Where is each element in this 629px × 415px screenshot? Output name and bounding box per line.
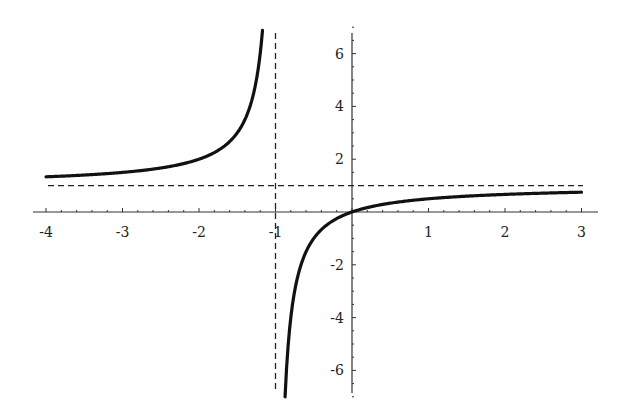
function-plot: -4-3-2-1123-6-4-2246: [0, 0, 629, 415]
y-tick-label: 2: [335, 151, 344, 167]
y-tick-label: -2: [330, 257, 344, 273]
x-tick-label: 1: [424, 224, 433, 240]
function-curves: [46, 30, 582, 396]
axes: [33, 33, 598, 393]
x-tick-label: 3: [577, 224, 586, 240]
asymptote-lines: [48, 33, 583, 393]
y-tick-label: 6: [335, 46, 344, 62]
x-tick-label: -2: [192, 224, 206, 240]
x-tick-label: -4: [39, 224, 53, 240]
x-tick-label: -3: [116, 224, 130, 240]
y-tick-label: -6: [330, 362, 344, 378]
x-tick-label: -1: [269, 224, 283, 240]
x-tick-label: 2: [501, 224, 510, 240]
y-tick-label: -4: [330, 310, 344, 326]
y-tick-label: 4: [335, 98, 344, 114]
left-branch-curve: [46, 30, 263, 176]
